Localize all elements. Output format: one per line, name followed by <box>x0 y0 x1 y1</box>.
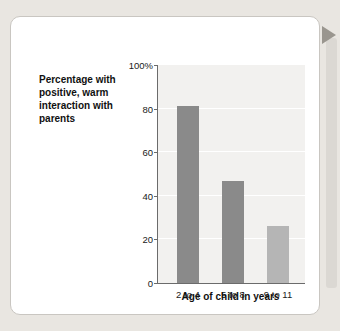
x-axis-label: Age of child in years <box>157 291 304 302</box>
y-tick-label-40: 40 <box>142 190 153 201</box>
gridline-100 <box>158 64 305 65</box>
chart-card: Percentage with positive, warm interacti… <box>10 16 320 315</box>
right-arrow-icon <box>322 26 336 44</box>
y-axis-label: Percentage with positive, warm interacti… <box>39 73 143 125</box>
y-tickmark-20 <box>154 239 158 240</box>
y-tick-label-20: 20 <box>142 234 153 245</box>
side-tab <box>326 38 337 288</box>
bar-2-to-4 <box>177 106 199 283</box>
plot-area: 100% 80 60 40 20 0 2 to 4 5 to 8 9 to 11 <box>157 65 305 284</box>
y-tickmark-0 <box>154 283 158 284</box>
y-tickmark-100 <box>154 65 158 66</box>
y-tick-label-60: 60 <box>142 147 153 158</box>
chart-screenshot: Percentage with positive, warm interacti… <box>0 0 340 331</box>
bar-5-to-8 <box>222 181 244 284</box>
y-tickmark-80 <box>154 109 158 110</box>
y-tickmark-60 <box>154 152 158 153</box>
bar-9-to-11 <box>267 226 289 283</box>
y-tick-label-100: 100% <box>129 60 153 71</box>
y-tick-label-0: 0 <box>148 278 153 289</box>
y-tickmark-40 <box>154 196 158 197</box>
y-tick-label-80: 80 <box>142 103 153 114</box>
